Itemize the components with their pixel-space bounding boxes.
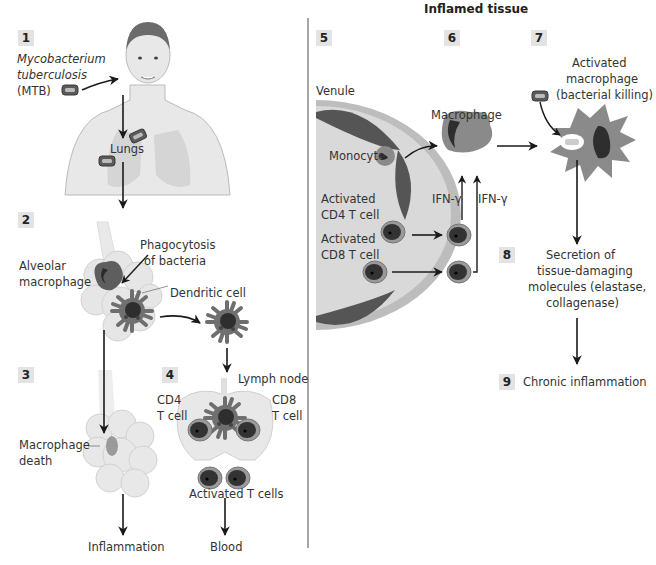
macrophage-death-label-2: death	[19, 454, 52, 468]
phagocytosis-label-2: of bacteria	[144, 254, 206, 268]
inflammation-label: Inflammation	[88, 540, 164, 554]
ifn-gamma-label-1: IFN-γ	[432, 192, 462, 206]
alveolar-label-2: macrophage	[19, 275, 91, 289]
activated-macrophage-label-3: (bacterial killing)	[556, 88, 653, 102]
mtb-label-1: Mycobacterium	[17, 52, 106, 66]
activated-t-cells-label: Activated T cells	[189, 487, 284, 501]
blood-label: Blood	[210, 540, 242, 554]
monocyte-label: Monocyte	[329, 149, 385, 163]
step-7-badge: 7	[531, 30, 547, 46]
secretion-label-2: tissue-damaging	[537, 264, 633, 278]
ifn-gamma-label-2: IFN-γ	[478, 192, 508, 206]
lungs-label: Lungs	[110, 142, 144, 156]
human-figure	[65, 22, 230, 195]
activated-cd8-label-2: CD8 T cell	[321, 248, 379, 262]
activated-cd8-label-1: Activated	[321, 232, 375, 246]
mtb-label-2: tuberculosis	[17, 68, 87, 82]
mtb-label-3: (MTB)	[17, 84, 51, 98]
cd8-label-2: T cell	[272, 409, 302, 423]
step-1-badge: 1	[18, 30, 34, 46]
step-8-badge: 8	[499, 247, 515, 263]
alveolar-label-1: Alveolar	[19, 259, 66, 273]
activated-macrophage-label-2: macrophage	[566, 72, 638, 86]
macrophage-death-label-1: Macrophage	[19, 438, 90, 452]
cd4-label-1: CD4	[157, 393, 181, 407]
macrophage-label: Macrophage	[431, 108, 502, 122]
step-5-badge: 5	[316, 30, 332, 46]
activated-cd4-label-1: Activated	[321, 192, 375, 206]
secretion-label-3: molecules (elastase,	[528, 280, 646, 294]
cd4-label-2: T cell	[157, 409, 187, 423]
step-3-badge: 3	[18, 367, 34, 383]
cd8-label-1: CD8	[272, 393, 296, 407]
step-6-badge: 6	[444, 30, 460, 46]
activated-cd4-label-2: CD4 T cell	[321, 208, 379, 222]
secretion-label-4: collagenase)	[546, 296, 619, 310]
step-2-badge: 2	[18, 212, 34, 228]
secretion-label-1: Secretion of	[546, 248, 615, 262]
chronic-inflammation-label: Chronic inflammation	[523, 375, 647, 389]
phagocytosis-label-1: Phagocytosis	[140, 238, 215, 252]
activated-macrophage-label-1: Activated	[572, 56, 626, 70]
lymph-node-label: Lymph node	[238, 372, 308, 386]
venule-label: Venule	[316, 84, 355, 98]
step-9-badge: 9	[499, 374, 515, 390]
step-4-badge: 4	[162, 367, 178, 383]
dendritic-cell-label: Dendritic cell	[170, 286, 246, 300]
diagram-title: Inflamed tissue	[424, 2, 528, 16]
